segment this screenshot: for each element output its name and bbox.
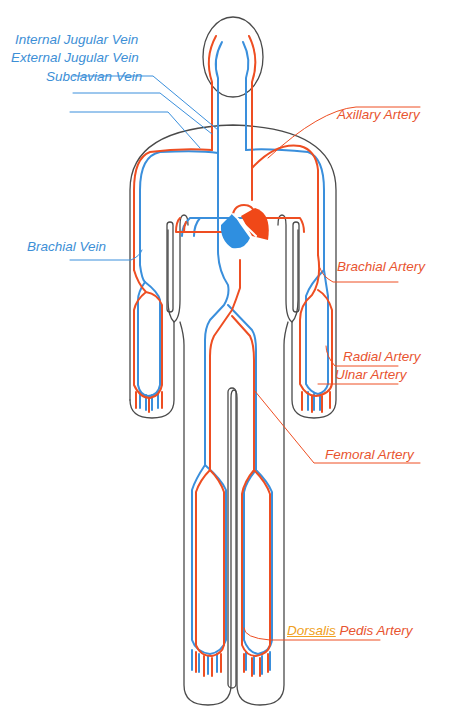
label-dorsalis-prefix: Dorsalis [287, 623, 336, 638]
arteries [134, 36, 332, 676]
label-pedis-artery: Pedis Artery [340, 623, 413, 638]
label-radial-artery: Radial Artery [343, 350, 421, 364]
heart [221, 208, 269, 248]
label-external-jugular-vein: External Jugular Vein [11, 51, 139, 65]
label-axillary-artery: Axillary Artery [337, 108, 420, 122]
label-internal-jugular-vein: Internal Jugular Vein [15, 33, 138, 47]
label-brachial-artery: Brachial Artery [337, 260, 425, 274]
label-subclavian-vein: Subclavian Vein [46, 70, 142, 84]
label-ulnar-artery: Ulnar Artery [335, 368, 407, 382]
label-femoral-artery: Femoral Artery [325, 448, 414, 462]
label-dorsalis-pedis-artery: Dorsalis Pedis Artery [287, 624, 413, 638]
label-brachial-vein: Brachial Vein [27, 240, 106, 254]
